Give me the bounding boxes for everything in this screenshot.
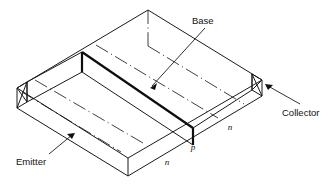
collector-leader-line bbox=[268, 86, 300, 104]
label-emitter: Emitter bbox=[16, 156, 46, 167]
label-region-emitter-n: n bbox=[165, 157, 170, 167]
label-region-collector-n: n bbox=[228, 122, 233, 132]
slab-top-face bbox=[17, 10, 262, 158]
emitter-leader-line bbox=[49, 135, 72, 154]
label-region-base-p: p bbox=[190, 142, 196, 152]
transistor-diagram: Isometric cutaway of an n-p-n junction t… bbox=[0, 0, 330, 185]
label-base: Base bbox=[192, 15, 214, 26]
label-collector: Collector bbox=[282, 107, 320, 118]
collector-leader-arrowhead bbox=[265, 84, 273, 90]
